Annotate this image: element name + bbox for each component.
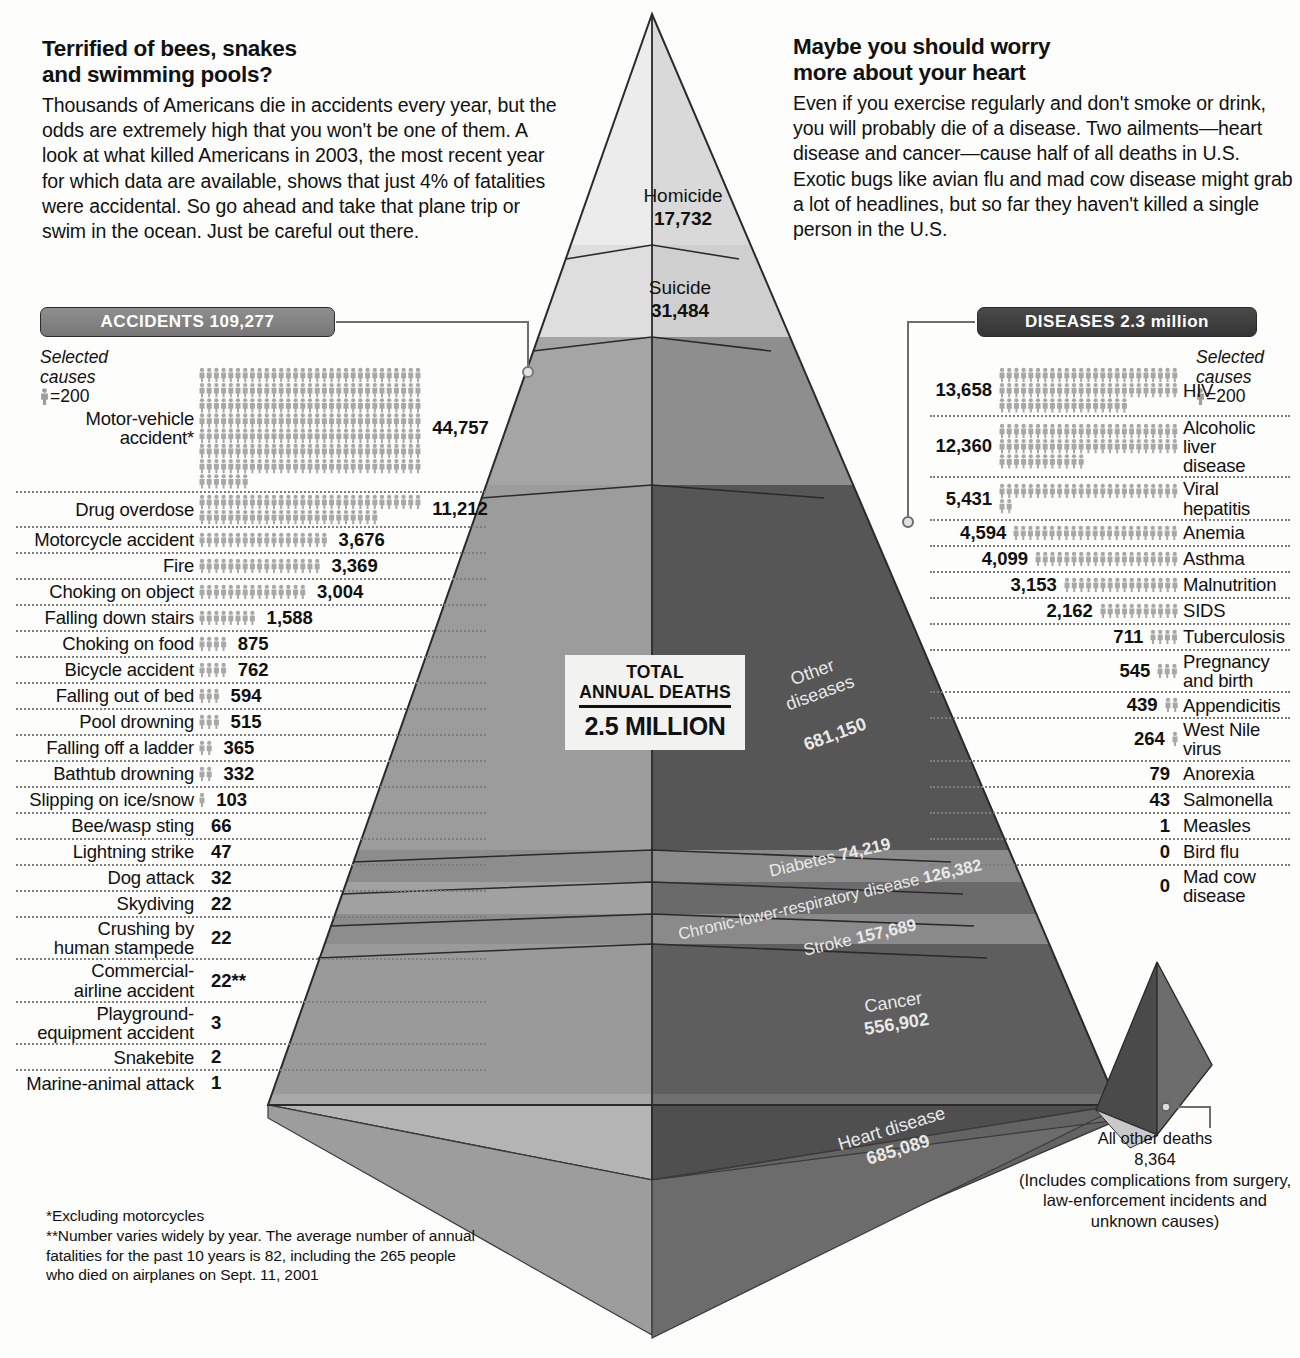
row-value: 3,153 <box>930 574 1063 596</box>
disease-row[interactable]: 2,162SIDS <box>930 599 1290 625</box>
person-icon-group <box>1034 551 1180 567</box>
person-icon-group <box>194 494 427 525</box>
footnotes: *Excluding motorcycles **Number varies w… <box>46 1206 476 1285</box>
disease-row[interactable]: 711Tuberculosis <box>930 625 1290 651</box>
intro-diseases-heading: Maybe you should worry more about your h… <box>793 34 1293 87</box>
accident-row[interactable]: Drug overdose11,212 <box>16 493 486 528</box>
person-icon-group <box>194 688 226 704</box>
accident-row[interactable]: Snakebite2 <box>16 1045 486 1071</box>
disease-row[interactable]: 0Bird flu <box>930 840 1290 866</box>
diseases-banner[interactable]: DISEASES 2.3 million <box>977 307 1257 337</box>
person-icon-group <box>194 792 211 808</box>
row-value: 22 <box>206 927 232 949</box>
disease-row[interactable]: 0Mad cow disease <box>930 866 1290 906</box>
person-icon-group <box>194 896 206 911</box>
disease-row[interactable]: 4,099Asthma <box>930 547 1290 573</box>
person-icon-group <box>194 636 233 652</box>
person-icon-group <box>194 1016 206 1031</box>
accident-row[interactable]: Falling off a ladder365 <box>16 736 486 762</box>
person-icon-group <box>194 584 312 600</box>
row-label: Motorcycle accident <box>16 530 194 549</box>
row-label: Bee/wasp sting <box>16 816 194 835</box>
total-label-line1: TOTAL <box>571 663 739 683</box>
disease-row[interactable]: 1Measles <box>930 814 1290 840</box>
total-annual-deaths-box: TOTAL ANNUAL DEATHS 2.5 MILLION <box>565 655 745 750</box>
accident-row[interactable]: Dog attack32 <box>16 866 486 892</box>
row-label: Marine-animal attack <box>16 1074 194 1093</box>
row-label: Anorexia <box>1180 764 1290 783</box>
row-value: 1,588 <box>262 607 313 629</box>
row-value: 44,757 <box>427 417 489 439</box>
accident-row[interactable]: Slipping on ice/snow103 <box>16 788 486 814</box>
row-label: Bicycle accident <box>16 660 194 679</box>
total-label-line2: ANNUAL DEATHS <box>571 683 739 703</box>
person-icon-group <box>194 844 206 859</box>
row-value: 1 <box>206 1072 221 1094</box>
accident-row[interactable]: Commercial- airline accident22** <box>16 960 486 1002</box>
accident-row[interactable]: Falling out of bed594 <box>16 684 486 710</box>
row-label: Viral hepatitis <box>1180 479 1290 517</box>
intro-accidents-heading: Terrified of bees, snakes and swimming p… <box>42 36 557 89</box>
all-other-title: All other deaths <box>1010 1128 1300 1149</box>
row-value: 1 <box>930 815 1176 837</box>
row-label: Choking on object <box>16 582 194 601</box>
row-value: 2,162 <box>930 600 1099 622</box>
row-label: Appendicitis <box>1180 696 1290 715</box>
row-value: 3,004 <box>312 581 363 603</box>
row-value: 22 <box>206 893 232 915</box>
row-value: 515 <box>226 711 262 733</box>
row-value: 594 <box>226 685 262 707</box>
accident-row[interactable]: Bee/wasp sting66 <box>16 814 486 840</box>
accident-row[interactable]: Marine-animal attack1 <box>16 1071 486 1095</box>
disease-row[interactable]: 13,658HIV <box>930 366 1290 417</box>
accident-row[interactable]: Motorcycle accident3,676 <box>16 528 486 554</box>
accidents-banner[interactable]: ACCIDENTS 109,277 <box>40 307 335 337</box>
accident-row[interactable]: Crushing by human stampede22 <box>16 918 486 960</box>
accident-row[interactable]: Bathtub drowning332 <box>16 762 486 788</box>
intro-accidents-body: Thousands of Americans die in accidents … <box>42 93 557 245</box>
accident-row[interactable]: Pool drowning515 <box>16 710 486 736</box>
disease-row[interactable]: 3,153Malnutrition <box>930 573 1290 599</box>
row-value: 3,369 <box>326 555 377 577</box>
person-icon-group <box>1164 697 1180 713</box>
infographic-root: Terrified of bees, snakes and swimming p… <box>0 0 1300 1358</box>
disease-row[interactable]: 545Pregnancy and birth <box>930 651 1290 693</box>
row-value: 66 <box>206 815 232 837</box>
footnote-two: **Number varies widely by year. The aver… <box>46 1226 476 1285</box>
accident-row[interactable]: Skydiving22 <box>16 892 486 918</box>
person-icon-group <box>194 714 226 730</box>
row-label: Motor-vehicle accident* <box>16 409 194 447</box>
row-label: Falling out of bed <box>16 686 194 705</box>
disease-row[interactable]: 5,431Viral hepatitis <box>930 478 1290 520</box>
accidents-list: Motor-vehicle accident*44,757Drug overdo… <box>16 366 486 1095</box>
disease-row[interactable]: 264West Nile virus <box>930 719 1290 761</box>
disease-row[interactable]: 4,594Anemia <box>930 521 1290 547</box>
diseases-banner-label: DISEASES 2.3 million <box>1025 312 1209 332</box>
row-value: 711 <box>930 626 1149 648</box>
row-value: 3 <box>206 1012 221 1034</box>
row-label: Crushing by human stampede <box>16 919 194 957</box>
row-label: Asthma <box>1180 549 1290 568</box>
row-value: 545 <box>930 660 1156 682</box>
accident-row[interactable]: Bicycle accident762 <box>16 658 486 684</box>
person-icon-group <box>1012 525 1180 541</box>
accident-row[interactable]: Playground- equipment accident3 <box>16 1003 486 1045</box>
accident-row[interactable]: Lightning strike47 <box>16 840 486 866</box>
diseases-leader-dot <box>903 517 913 527</box>
person-icon-group <box>1171 731 1180 747</box>
accident-row[interactable]: Falling down stairs1,588 <box>16 606 486 632</box>
row-value: 12,360 <box>930 435 998 457</box>
accidents-banner-label: ACCIDENTS 109,277 <box>101 312 275 332</box>
row-value: 439 <box>930 694 1164 716</box>
accident-row[interactable]: Fire3,369 <box>16 554 486 580</box>
disease-row[interactable]: 12,360Alcoholic liver disease <box>930 417 1290 479</box>
disease-row[interactable]: 43Salmonella <box>930 788 1290 814</box>
person-icon-group <box>1156 663 1180 679</box>
disease-row[interactable]: 79Anorexia <box>930 762 1290 788</box>
disease-row[interactable]: 439Appendicitis <box>930 693 1290 719</box>
accident-row[interactable]: Choking on object3,004 <box>16 580 486 606</box>
accident-row[interactable]: Choking on food875 <box>16 632 486 658</box>
accident-row[interactable]: Motor-vehicle accident*44,757 <box>16 366 486 493</box>
row-label: Falling off a ladder <box>16 738 194 757</box>
row-label: Tuberculosis <box>1180 627 1290 646</box>
